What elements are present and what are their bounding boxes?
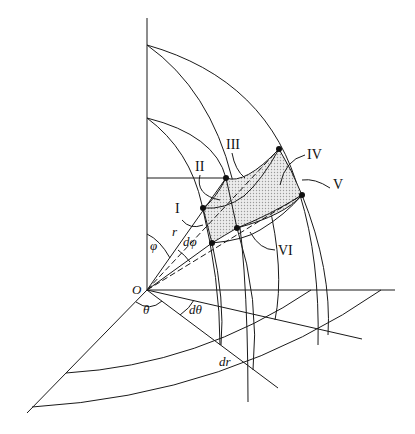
corner-point [276, 146, 282, 152]
dphi-label: dφ [183, 234, 197, 249]
spherical-coordinates-diagram: O φ r dφ θ dθ dr I II III IV V VI [0, 0, 415, 434]
corner-point [234, 225, 240, 231]
corner-point [209, 240, 215, 246]
volume-element [203, 149, 302, 243]
face-label-I: I [175, 201, 180, 216]
leader-III [232, 153, 245, 178]
face-label-II: II [195, 159, 205, 174]
dphi-angle-arc [178, 250, 190, 262]
phi-label: φ [150, 238, 157, 253]
dtheta-label: dθ [189, 302, 203, 317]
corner-point [299, 192, 305, 198]
face-label-V: V [333, 177, 343, 192]
corner-point [223, 175, 229, 181]
face-label-IV: IV [307, 147, 322, 162]
theta-label: θ [143, 302, 150, 317]
corner-point [200, 205, 206, 211]
r-label: r [172, 224, 178, 239]
face-label-VI: VI [278, 243, 293, 258]
leader-VI [250, 232, 275, 250]
leader-V [302, 180, 330, 188]
face-label-III: III [226, 137, 240, 152]
origin-label: O [132, 282, 142, 297]
dr-label: dr [219, 354, 232, 369]
